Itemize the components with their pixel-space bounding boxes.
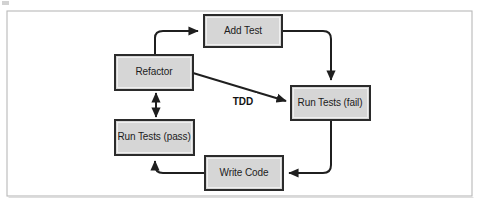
edge-label-layer: TDD [229,93,257,107]
node-run-tests-pass[interactable]: Run Tests (pass) [115,120,194,155]
node-label-run-tests-fail: Run Tests (fail) [298,97,363,108]
node-refactor[interactable]: Refactor [115,55,193,90]
node-label-refactor: Refactor [136,66,174,77]
node-label-run-tests-pass: Run Tests (pass) [117,131,190,142]
tdd-cycle-figure: Add TestRefactorRun Tests (fail)Run Test… [0,0,479,205]
edge-label-refactor-to-run-tests-fail-tdd: TDD [233,96,254,107]
node-add-test[interactable]: Add Test [204,15,282,47]
tdd-cycle-diagram: Add TestRefactorRun Tests (fail)Run Test… [0,0,479,205]
node-label-write-code: Write Code [220,167,269,178]
node-label-add-test: Add Test [224,25,262,36]
node-write-code[interactable]: Write Code [205,156,283,190]
node-run-tests-fail[interactable]: Run Tests (fail) [291,86,370,120]
scan-artifact [2,1,9,5]
